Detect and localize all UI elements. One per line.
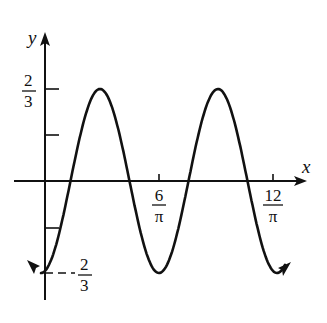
y-axis-label: y	[26, 27, 37, 48]
x2-numerator: 12	[265, 186, 282, 205]
ybot-denominator: 3	[80, 276, 89, 295]
ytop-numerator: 2	[24, 71, 33, 90]
x1-denominator: π	[155, 207, 164, 226]
ytop-denominator: 3	[24, 92, 33, 111]
x-axis-label: x	[301, 156, 311, 177]
chart: y x 2 3 2 3 6 π 12 π	[0, 0, 327, 323]
x2-denominator: π	[269, 207, 278, 226]
axes	[14, 42, 300, 300]
x1-numerator: 6	[155, 186, 164, 205]
ybot-numerator: 2	[80, 255, 89, 274]
curve-left-arrow-icon	[27, 260, 40, 274]
